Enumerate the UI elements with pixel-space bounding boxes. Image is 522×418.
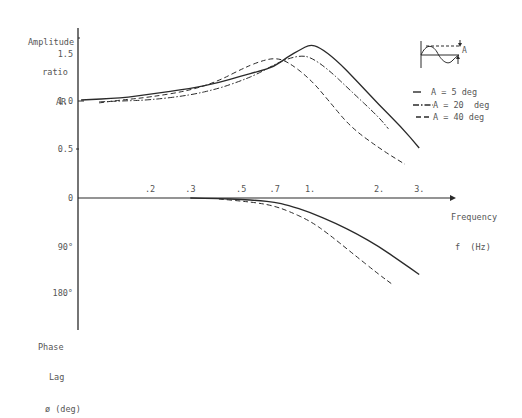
x-tick-label: 2. bbox=[374, 184, 384, 194]
phase-curve-a-5-deg bbox=[190, 198, 419, 275]
x-axis-title: Frequency f (Hz) bbox=[451, 192, 497, 262]
x-tick-label: .5 bbox=[236, 184, 246, 194]
amplitude-curve-a-40-deg bbox=[99, 59, 405, 165]
legend-label-40deg: A = 40 deg bbox=[433, 112, 484, 122]
y-tick-180: 180° bbox=[40, 288, 73, 298]
amplitude-title-line1: Amplitude bbox=[25, 37, 77, 47]
phase-series bbox=[190, 198, 419, 285]
y-tick-0.5: 0.5 bbox=[40, 144, 73, 154]
x-tick-label: .7 bbox=[270, 184, 280, 194]
phase-title-line1: Phase bbox=[38, 342, 88, 352]
x-tick-label: .2 bbox=[145, 184, 155, 194]
y-tick-90: 90° bbox=[40, 242, 73, 252]
phase-axis-title: Phase Lag ø (deg) bbox=[38, 322, 88, 418]
y-tick-0: 0 bbox=[40, 193, 73, 203]
legend-label-5deg: A = 5 deg bbox=[431, 87, 477, 97]
x-title-line2: f (Hz) bbox=[455, 242, 497, 252]
amplitude-curve-a-5-deg bbox=[81, 45, 419, 148]
x-tick-label: .3 bbox=[185, 184, 195, 194]
amplitude-title-line2: ratio bbox=[33, 67, 77, 77]
y-ticks bbox=[76, 38, 84, 149]
inset-amplitude-label: A bbox=[462, 46, 467, 56]
phase-title-line3: ø (deg) bbox=[45, 404, 88, 414]
amplitude-curve-a-20-deg bbox=[99, 56, 388, 129]
x-tick-label: 1. bbox=[305, 184, 315, 194]
oscillation-inset-icon bbox=[421, 40, 462, 68]
x-title-line1: Frequency bbox=[451, 212, 497, 222]
phase-title-line2: Lag bbox=[49, 372, 88, 382]
phase-curve-a-40-deg bbox=[219, 199, 393, 285]
y-tick-1.0: 1.0 bbox=[40, 96, 73, 106]
legend-samples bbox=[413, 92, 433, 117]
amplitude-series bbox=[81, 45, 419, 164]
y-tick-1.5: 1.5 bbox=[40, 49, 73, 59]
x-tick-label: 3. bbox=[414, 184, 424, 194]
legend-label-20deg: A = 20 deg bbox=[433, 100, 489, 110]
